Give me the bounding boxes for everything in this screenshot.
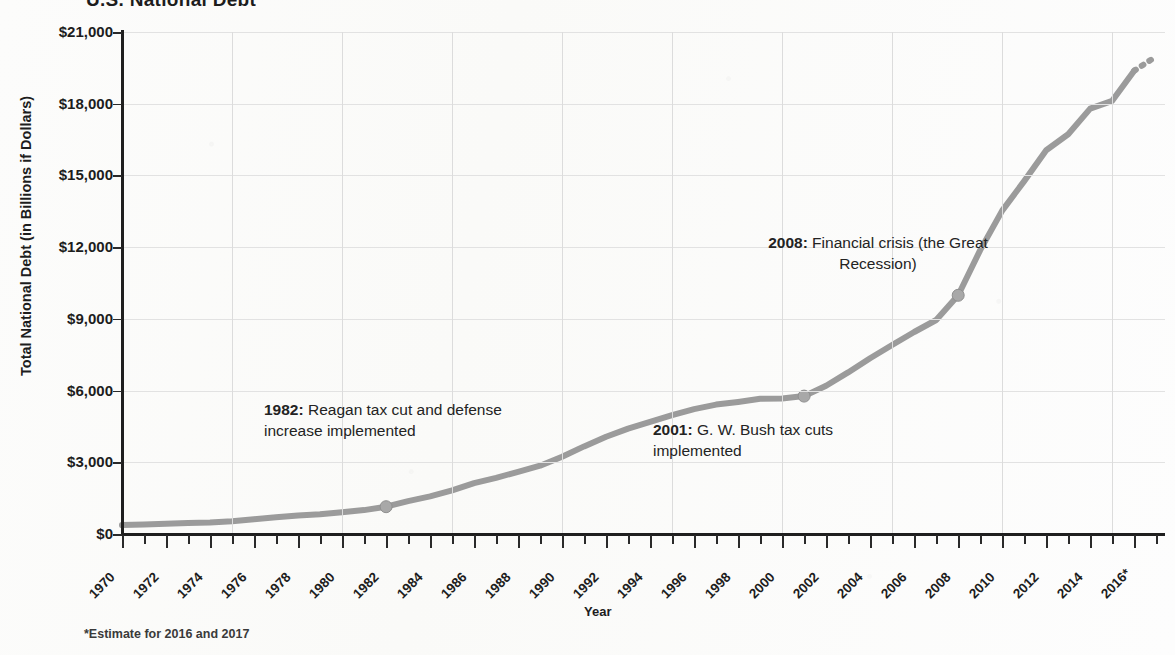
- x-axis-tick-major: [254, 535, 256, 548]
- x-axis-tick-minor: [936, 535, 938, 544]
- x-axis-tick-major: [782, 535, 784, 548]
- x-axis-tick-minor: [1156, 535, 1158, 544]
- x-axis-tick-label: 1984: [394, 569, 426, 601]
- x-axis-tick-major: [298, 535, 300, 548]
- data-point-marker-2008: [952, 289, 964, 301]
- gridline-horizontal: [122, 247, 1165, 248]
- x-axis-tick-label: 2016*: [1098, 566, 1134, 602]
- x-axis-tick-minor: [628, 535, 630, 544]
- gridline-vertical: [1002, 32, 1003, 534]
- y-axis-tick: [113, 104, 122, 106]
- y-axis-tick-label: $9,000: [67, 310, 113, 327]
- gridline-vertical: [232, 32, 233, 534]
- x-axis-tick-label: 1992: [570, 569, 602, 601]
- x-axis-tick-label: 1998: [702, 569, 734, 601]
- x-axis-tick-label: 2014: [1054, 569, 1086, 601]
- gridline-horizontal: [122, 175, 1165, 176]
- x-axis-tick-major: [1090, 535, 1092, 548]
- y-axis-tick-label: $15,000: [59, 166, 113, 183]
- annotation-2001-year: 2001:: [653, 421, 693, 438]
- x-axis-tick-minor: [452, 535, 454, 544]
- x-axis-tick-major: [562, 535, 564, 548]
- x-axis-tick-label: 1996: [658, 569, 690, 601]
- x-axis-tick-minor: [584, 535, 586, 544]
- x-axis-tick-label: 2010: [966, 569, 998, 601]
- x-axis-tick-major: [826, 535, 828, 548]
- y-axis-tick-label: $6,000: [67, 382, 113, 399]
- debt-line-estimate-dashed: [1134, 56, 1156, 70]
- debt-line-solid: [122, 71, 1134, 525]
- x-axis-tick-major: [870, 535, 872, 548]
- x-axis-tick-label: 1972: [130, 569, 162, 601]
- x-axis-title: Year: [584, 604, 611, 619]
- x-axis-tick-label: 1986: [438, 569, 470, 601]
- x-axis-tick-minor: [364, 535, 366, 544]
- x-axis-tick-label: 1982: [350, 569, 382, 601]
- x-axis-tick-major: [1134, 535, 1136, 548]
- x-axis-tick-minor: [408, 535, 410, 544]
- x-axis-tick-minor: [892, 535, 894, 544]
- x-axis-tick-label: 2004: [834, 569, 866, 601]
- x-axis-tick-minor: [848, 535, 850, 544]
- x-axis-tick-label: 1970: [86, 569, 118, 601]
- x-axis-tick-major: [122, 535, 124, 548]
- x-axis-tick-minor: [232, 535, 234, 544]
- chart-title: U.S. National Debt: [86, 0, 256, 11]
- annotation-1982: 1982: Reagan tax cut and defense increas…: [264, 399, 544, 441]
- annotation-1982-year: 1982:: [264, 401, 304, 418]
- gridline-vertical: [892, 32, 893, 534]
- gridline-horizontal: [122, 104, 1165, 105]
- x-axis-tick-label: 1974: [174, 569, 206, 601]
- x-axis-tick-label: 2012: [1010, 569, 1042, 601]
- x-axis-tick-label: 1976: [218, 569, 250, 601]
- gridline-vertical: [562, 32, 563, 534]
- x-axis-tick-minor: [320, 535, 322, 544]
- y-axis-tick: [113, 32, 122, 34]
- y-axis-tick: [113, 462, 122, 464]
- x-axis-tick-major: [342, 535, 344, 548]
- y-axis-tick-label: $12,000: [59, 238, 113, 255]
- x-axis-tick-major: [1046, 535, 1048, 548]
- x-axis-tick-major: [518, 535, 520, 548]
- annotation-2008: 2008: Financial crisis (the Great Recess…: [760, 232, 996, 274]
- y-axis-tick-label: $3,000: [67, 453, 113, 470]
- y-axis-tick: [113, 534, 122, 536]
- x-axis-tick-minor: [1112, 535, 1114, 544]
- x-axis-tick-major: [430, 535, 432, 548]
- x-axis-tick-major: [914, 535, 916, 548]
- x-axis-tick-major: [738, 535, 740, 548]
- x-axis-tick-major: [694, 535, 696, 548]
- y-axis-tick: [113, 391, 122, 393]
- y-axis-tick: [113, 247, 122, 249]
- x-axis-tick-label: 2000: [746, 569, 778, 601]
- gridline-horizontal: [122, 391, 1165, 392]
- debt-line-series: [122, 32, 1165, 534]
- x-axis-tick-major: [1002, 535, 1004, 548]
- gridline-vertical: [1112, 32, 1113, 534]
- x-axis-tick-label: 1978: [262, 569, 294, 601]
- gridline-vertical: [342, 32, 343, 534]
- annotation-2001: 2001: G. W. Bush tax cuts implemented: [653, 419, 883, 461]
- x-axis-tick-major: [958, 535, 960, 548]
- x-axis-tick-minor: [276, 535, 278, 544]
- data-point-marker-1982: [380, 501, 392, 513]
- x-axis-tick-minor: [760, 535, 762, 544]
- y-axis-tick-label: $0: [96, 525, 113, 542]
- gridline-vertical: [452, 32, 453, 534]
- x-axis-tick-label: 1980: [306, 569, 338, 601]
- gridline-horizontal: [122, 462, 1165, 463]
- annotation-2008-year: 2008:: [768, 234, 808, 251]
- x-axis-tick-label: 2006: [878, 569, 910, 601]
- x-axis-tick-label: 2002: [790, 569, 822, 601]
- y-axis-title: Total National Debt (in Billions if Doll…: [18, 156, 34, 376]
- x-axis-tick-minor: [804, 535, 806, 544]
- y-axis-line: [121, 30, 124, 536]
- y-axis-tick-label: $21,000: [59, 23, 113, 40]
- x-axis-tick-major: [650, 535, 652, 548]
- x-axis-tick-minor: [144, 535, 146, 544]
- x-axis-tick-minor: [1068, 535, 1070, 544]
- x-axis-tick-minor: [980, 535, 982, 544]
- x-axis-tick-major: [210, 535, 212, 548]
- x-axis-tick-label: 1988: [482, 569, 514, 601]
- x-axis-tick-major: [606, 535, 608, 548]
